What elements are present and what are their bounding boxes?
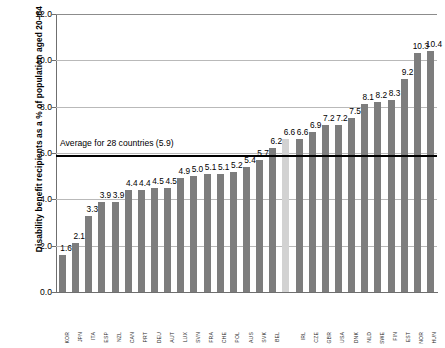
bar [204,174,211,292]
bar [112,202,119,292]
y-axis-tick-label: 0.0 [0,288,52,297]
x-axis-tick-label: ITA [91,332,96,348]
bar [374,102,381,292]
gridline [56,60,437,61]
average-line-label: Average for 28 countries (5.9) [60,139,174,148]
y-axis-tick-label: 8.0 [0,102,52,111]
average-reference-line [56,155,437,157]
x-axis-tick-label: SVK [262,332,267,348]
bar [72,243,79,292]
x-axis-tick-label: IRL [301,332,306,348]
x-axis-tick-label: HUN [432,332,437,348]
bar-value-label: 10.4 [423,40,445,48]
bar [282,139,289,292]
x-axis-tick-label: PRT [143,332,148,348]
x-axis-tick-label: BEL [275,332,280,348]
x-axis-tick-label: NZL [117,332,122,348]
y-axis-tick-label: 6.0 [0,149,52,158]
bar [164,188,171,292]
plot-area: 1.62.13.33.93.94.44.44.54.54.95.05.15.15… [56,14,437,292]
x-axis-tick-label: NOR [419,332,424,348]
bar [243,167,250,292]
bar [414,53,421,292]
y-axis-tick-label: 10.0 [0,56,52,65]
bar [269,148,276,292]
y-axis-tick-label: 2.0 [0,241,52,250]
y-axis-title: Disability benefit recipients as a % of … [34,0,44,264]
x-axis-tick-label: DNK [354,332,359,348]
bar [322,125,329,292]
x-axis-tick-label: LUX [183,332,188,348]
x-axis-tick-label: CZE [314,332,319,348]
x-axis-tick-label: SWE [380,332,385,348]
bar [230,172,237,292]
x-axis-tick-label: KOR [65,332,70,348]
x-axis-tick-label: FRA [209,332,214,348]
bar [138,190,145,292]
x-axis-tick-label: SVN [196,332,201,348]
bar [296,139,303,292]
bar [125,190,132,292]
bar [217,174,224,292]
x-axis-tick-label: ESP [104,332,109,348]
bar [98,202,105,292]
x-axis-tick-label: AUS [249,332,254,348]
x-axis-tick-labels: KORJPNITAESPNZLCANPRTDEUAUTLUXSVNFRACHEP… [56,294,438,333]
x-axis-tick-label: DEU [157,332,162,348]
y-axis-tick-label: 4.0 [0,195,52,204]
x-axis-tick-label: JPN [78,332,83,348]
y-axis-tick-label: 12.0 [0,10,52,19]
bar [190,176,197,292]
bar [427,51,434,292]
x-axis-line [56,292,438,293]
bar [151,188,158,292]
bar [361,104,368,292]
x-axis-tick-label: NLD [367,332,372,348]
bar [348,118,355,292]
bar [401,79,408,292]
bar [335,125,342,292]
bar [85,216,92,292]
x-axis-tick-label: CAN [130,332,135,348]
x-axis-tick-label: AUT [170,332,175,348]
bar [59,255,66,292]
gridline [56,14,437,15]
x-axis-tick-label: POL [235,332,240,348]
x-axis-tick-label: GBR [327,332,332,348]
bar [177,178,184,292]
x-axis-tick-label: USA [340,332,345,348]
x-axis-tick-label: CHE [222,332,227,348]
x-axis-tick-label: EST [406,332,411,348]
bar [256,160,263,292]
bar [388,100,395,292]
x-axis-tick-label: FIN [393,332,398,348]
